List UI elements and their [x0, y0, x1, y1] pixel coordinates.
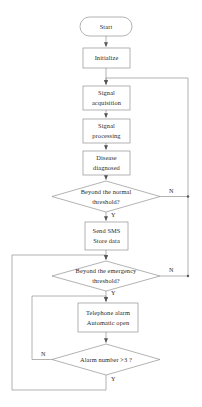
branch-label-alarm-no: N	[41, 351, 45, 357]
branch-label-normal-no: N	[169, 188, 173, 194]
node-shape-normal-threshold	[52, 181, 160, 212]
node-shape-disease-diagnosed	[83, 151, 130, 175]
node-shape-send-sms	[85, 222, 128, 250]
node-shape-telephone-alarm	[78, 303, 138, 332]
node-shape-start	[80, 17, 132, 36]
branch-label-alarm-yes: Y	[111, 376, 115, 382]
connector-alarm-yes-to-outer-left-return	[12, 255, 106, 390]
node-shape-emergency-threshold	[52, 261, 160, 291]
node-shape-signal-acquisition	[83, 86, 130, 110]
branch-label-normal-yes: Y	[111, 212, 115, 218]
node-shape-initialize	[83, 48, 130, 68]
junction-dot-normal-no	[187, 195, 189, 197]
branch-label-emergency-yes: Y	[111, 290, 115, 296]
flowchart-canvas: Start Initialize Signal acquisition Sign…	[0, 0, 202, 407]
node-shape-signal-processing	[83, 119, 130, 143]
connector-right-bus-to-acquisition	[106, 78, 188, 276]
node-shape-alarm-number	[52, 344, 160, 375]
branch-label-emergency-no: N	[169, 267, 173, 273]
junction-dot-emergency-no	[187, 275, 189, 277]
flowchart-graphics	[0, 0, 202, 407]
